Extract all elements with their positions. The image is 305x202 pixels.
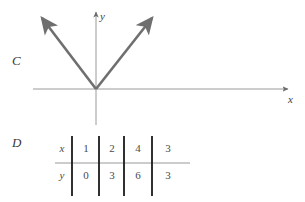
table-row-header-y: y xyxy=(52,170,72,181)
graph-left-ray xyxy=(42,18,96,89)
table-cell-x-4: 3 xyxy=(158,143,178,154)
table-row-header-x: x xyxy=(52,143,72,154)
table-cell-y-4: 3 xyxy=(158,170,178,181)
table-cell-y-3: 6 xyxy=(128,170,148,181)
graph-figure: y x xyxy=(0,0,305,130)
x-axis-label: x xyxy=(288,94,293,105)
table-cell-x-1: 1 xyxy=(76,143,96,154)
graph-svg xyxy=(0,0,305,130)
table-cell-y-1: 0 xyxy=(76,170,96,181)
graph-right-ray xyxy=(96,18,152,89)
value-table: x 1 2 4 3 y 0 3 6 3 xyxy=(0,130,305,202)
table-rules-svg xyxy=(0,130,305,202)
table-cell-x-2: 2 xyxy=(102,143,122,154)
table-cell-x-3: 4 xyxy=(128,143,148,154)
table-cell-y-2: 3 xyxy=(102,170,122,181)
y-axis-label: y xyxy=(100,11,105,22)
figure-page: C y x D xyxy=(0,0,305,202)
